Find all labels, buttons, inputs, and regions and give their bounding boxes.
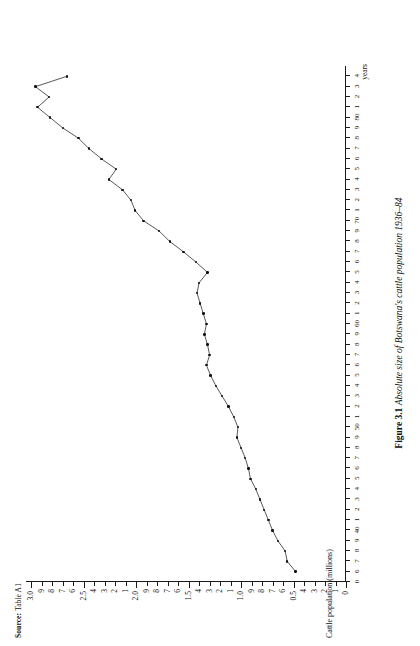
rotated-page-content: Source: Table A1 Cattle population (mill… [0, 0, 420, 646]
y-tick-label: 2.0 [131, 591, 140, 600]
data-point [202, 312, 204, 314]
x-tick: 8 [346, 344, 350, 345]
x-tick-label: 7 [353, 351, 361, 358]
y-tick: 2 [220, 582, 221, 586]
x-tick-label: 8 [353, 547, 361, 554]
x-tick-label: 9 [353, 330, 361, 337]
y-tick-label: 0 [341, 591, 350, 595]
y-tick-label: 3 [100, 589, 109, 593]
x-tick: 1 [346, 416, 350, 417]
y-tick-label: 1 [121, 589, 130, 593]
y-tick: 1 [336, 582, 337, 586]
x-tick: 2 [346, 199, 350, 200]
x-tick-label: 1 [353, 516, 361, 523]
x-tick: 8 [346, 240, 350, 241]
y-tick: 6 [283, 582, 284, 586]
x-tick-label: 2 [353, 506, 361, 513]
x-tick-label: 6 [353, 464, 361, 471]
x-tick: 6 [346, 158, 350, 159]
data-point [271, 529, 273, 531]
x-tick: 3 [346, 498, 350, 499]
x-tick-label: 9 [353, 434, 361, 441]
data-point [267, 519, 269, 521]
x-tick-label: 9 [353, 537, 361, 544]
x-tick: 9 [346, 127, 350, 128]
data-point [240, 447, 242, 449]
x-tick-label: 50 [353, 423, 361, 430]
y-tick-label: 1.0 [236, 591, 245, 600]
y-tick-label: 3 [310, 589, 319, 593]
y-tick-label: 9 [37, 589, 46, 593]
x-tick-label: 60 [353, 320, 361, 327]
x-tick: 5 [346, 168, 350, 169]
x-tick-label: 9 [353, 227, 361, 234]
y-tick: 2.0 [136, 582, 137, 588]
data-point [206, 343, 208, 345]
data-point [206, 271, 208, 273]
x-tick: 6 [346, 467, 350, 468]
y-tick-label: 1 [331, 589, 340, 593]
source-note: Source: Table A1 [14, 583, 23, 638]
y-tick: 1.0 [241, 582, 242, 588]
y-tick-label: 7 [58, 589, 67, 593]
x-tick: 6 [346, 364, 350, 365]
x-tick: 2 [346, 302, 350, 303]
y-tick: 2 [115, 582, 116, 586]
data-point [77, 137, 79, 139]
x-tick: 8 [346, 550, 350, 551]
y-tick: 8 [262, 582, 263, 586]
x-tick: 8 [346, 137, 350, 138]
x-tick: 5 [346, 478, 350, 479]
data-point [236, 436, 238, 438]
data-point [169, 240, 171, 242]
y-tick-label: 4 [89, 589, 98, 593]
y-tick-label: 3 [205, 589, 214, 593]
data-point [88, 147, 90, 149]
x-tick: 9 [346, 540, 350, 541]
x-tick: 2 [346, 406, 350, 407]
data-point [247, 467, 249, 469]
y-tick: 9 [147, 582, 148, 586]
x-tick: 2 [346, 96, 350, 97]
figure-page: Source: Table A1 Cattle population (mill… [0, 0, 420, 646]
x-tick-label: 5 [353, 165, 361, 172]
data-point [227, 405, 229, 407]
y-tick-label: 1 [226, 589, 235, 593]
y-tick-label: 3.0 [26, 591, 35, 600]
x-tick: 1 [346, 209, 350, 210]
data-point [286, 560, 288, 562]
y-tick: 1.5 [189, 582, 190, 588]
x-tick: 7 [346, 457, 350, 458]
x-tick-label: 3 [353, 392, 361, 399]
y-tick: 1 [126, 582, 127, 586]
x-tick-label: 2 [353, 299, 361, 306]
y-tick-label: 2 [215, 589, 224, 593]
x-tick: 9 [346, 333, 350, 334]
y-tick-label: 0.5 [289, 591, 298, 600]
y-tick-label: 8 [257, 589, 266, 593]
data-point [199, 302, 201, 304]
data-point [221, 395, 223, 397]
data-point [249, 478, 251, 480]
x-tick-label: 1 [353, 206, 361, 213]
y-tick-label: 8 [47, 589, 56, 593]
y-tick: 2 [325, 582, 326, 586]
data-point [108, 178, 110, 180]
y-tick-label: 2 [320, 589, 329, 593]
data-point [195, 261, 197, 263]
x-tick-label: 9 [353, 124, 361, 131]
x-tick: 7 [346, 354, 350, 355]
y-tick: 7 [168, 582, 169, 586]
x-tick-label: 4 [353, 176, 361, 183]
x-tick-label: 1 [353, 103, 361, 110]
x-tick-label: 6 [353, 361, 361, 368]
data-point [100, 158, 102, 160]
data-point [48, 96, 50, 98]
x-tick: 0 [346, 581, 350, 582]
x-tick: 80 [346, 117, 350, 118]
y-tick-label: 1.5 [184, 591, 193, 600]
y-tick: 2.5 [84, 582, 85, 588]
data-point [115, 168, 117, 170]
data-point [142, 220, 144, 222]
data-point [209, 374, 211, 376]
